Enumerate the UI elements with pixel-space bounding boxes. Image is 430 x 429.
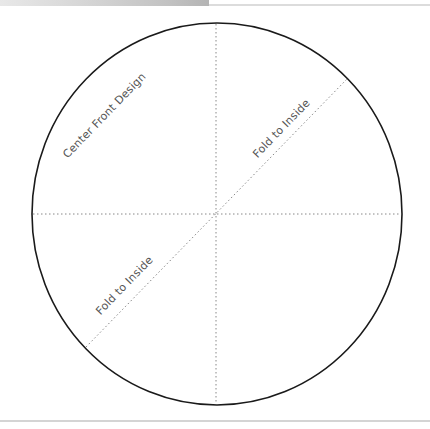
center-front-design-label: Center Front Design — [60, 70, 148, 161]
fold-template-diagram: Center Front Design Fold to Inside Fold … — [0, 0, 430, 429]
fold-to-inside-upper-label: Fold to Inside — [250, 97, 312, 161]
footer-rule — [0, 420, 430, 422]
fold-to-inside-lower-label: Fold to Inside — [93, 254, 155, 318]
